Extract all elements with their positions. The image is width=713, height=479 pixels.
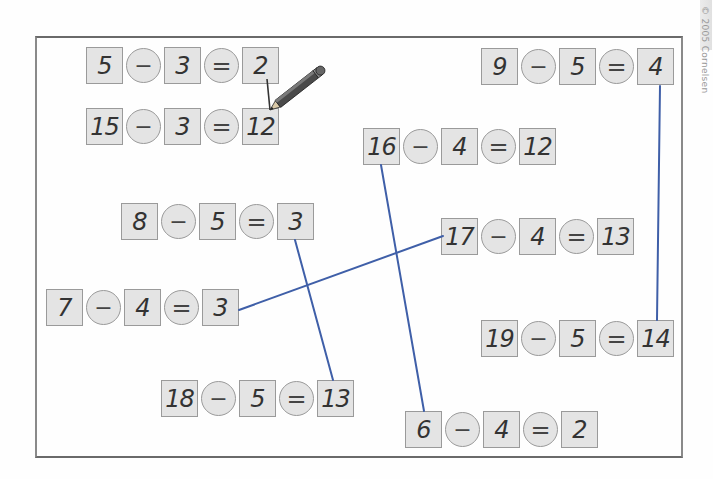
result-box: 2 (242, 47, 279, 84)
minus-sign: − (521, 49, 556, 84)
minuend-box: 17 (441, 218, 478, 255)
minus-sign: − (481, 219, 516, 254)
equation-row: 5−3=2 (86, 47, 279, 84)
minuend-box: 6 (405, 411, 442, 448)
equals-sign: = (599, 49, 634, 84)
equation-row: 9−5=4 (481, 48, 674, 85)
equation-row: 17−4=13 (441, 218, 634, 255)
equals-sign: = (164, 290, 199, 325)
equation-row: 6−4=2 (405, 411, 598, 448)
copyright-text: © 2005 Cornelsen (700, 6, 710, 93)
subtrahend-box: 4 (124, 289, 161, 326)
minuend-box: 7 (46, 289, 83, 326)
equals-sign: = (239, 204, 274, 239)
equation-row: 16−4=12 (363, 128, 556, 165)
minuend-box: 15 (86, 108, 123, 145)
equation-row: 19−5=14 (481, 320, 674, 357)
result-box: 12 (242, 108, 279, 145)
equals-sign: = (599, 321, 634, 356)
minuend-box: 5 (86, 47, 123, 84)
result-box: 3 (277, 203, 314, 240)
result-box: 12 (519, 128, 556, 165)
subtrahend-box: 5 (239, 380, 276, 417)
equals-sign: = (559, 219, 594, 254)
subtrahend-box: 3 (164, 47, 201, 84)
copyright-notice: © 2005 Cornelsen (698, 4, 712, 124)
minus-sign: − (126, 48, 161, 83)
subtrahend-box: 5 (199, 203, 236, 240)
equals-sign: = (523, 412, 558, 447)
minus-sign: − (201, 381, 236, 416)
equation-row: 7−4=3 (46, 289, 239, 326)
result-box: 3 (202, 289, 239, 326)
minuend-box: 19 (481, 320, 518, 357)
minuend-box: 9 (481, 48, 518, 85)
equals-sign: = (279, 381, 314, 416)
subtrahend-box: 3 (164, 108, 201, 145)
equation-row: 8−5=3 (121, 203, 314, 240)
subtrahend-box: 4 (441, 128, 478, 165)
result-box: 2 (561, 411, 598, 448)
result-box: 14 (637, 320, 674, 357)
result-box: 13 (597, 218, 634, 255)
minuend-box: 8 (121, 203, 158, 240)
equals-sign: = (204, 48, 239, 83)
equals-sign: = (481, 129, 516, 164)
minus-sign: − (126, 109, 161, 144)
minus-sign: − (445, 412, 480, 447)
minus-sign: − (161, 204, 196, 239)
minuend-box: 18 (161, 380, 198, 417)
result-box: 4 (637, 48, 674, 85)
minus-sign: − (403, 129, 438, 164)
minuend-box: 16 (363, 128, 400, 165)
subtrahend-box: 5 (559, 320, 596, 357)
subtrahend-box: 4 (483, 411, 520, 448)
equation-row: 18−5=13 (161, 380, 354, 417)
equation-row: 15−3=12 (86, 108, 279, 145)
subtrahend-box: 5 (559, 48, 596, 85)
minus-sign: − (86, 290, 121, 325)
subtrahend-box: 4 (519, 218, 556, 255)
minus-sign: − (521, 321, 556, 356)
result-box: 13 (317, 380, 354, 417)
equals-sign: = (204, 109, 239, 144)
